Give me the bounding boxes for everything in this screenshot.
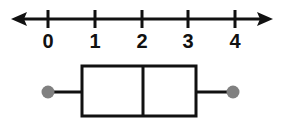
tick-label-2: 2 bbox=[136, 30, 147, 52]
tick-label-4: 4 bbox=[229, 30, 241, 52]
box-plot-svg: 01234 bbox=[0, 0, 288, 131]
box-whisker-plot bbox=[42, 66, 240, 116]
box-plot-figure: 01234 bbox=[0, 0, 288, 131]
number-line: 01234 bbox=[11, 10, 273, 52]
interquartile-box bbox=[82, 66, 196, 116]
maximum-endpoint-dot bbox=[227, 86, 240, 99]
tick-label-0: 0 bbox=[42, 30, 53, 52]
tick-label-group: 01234 bbox=[42, 30, 241, 52]
minimum-endpoint-dot bbox=[42, 86, 55, 99]
tick-label-3: 3 bbox=[182, 30, 193, 52]
tick-label-1: 1 bbox=[89, 30, 100, 52]
